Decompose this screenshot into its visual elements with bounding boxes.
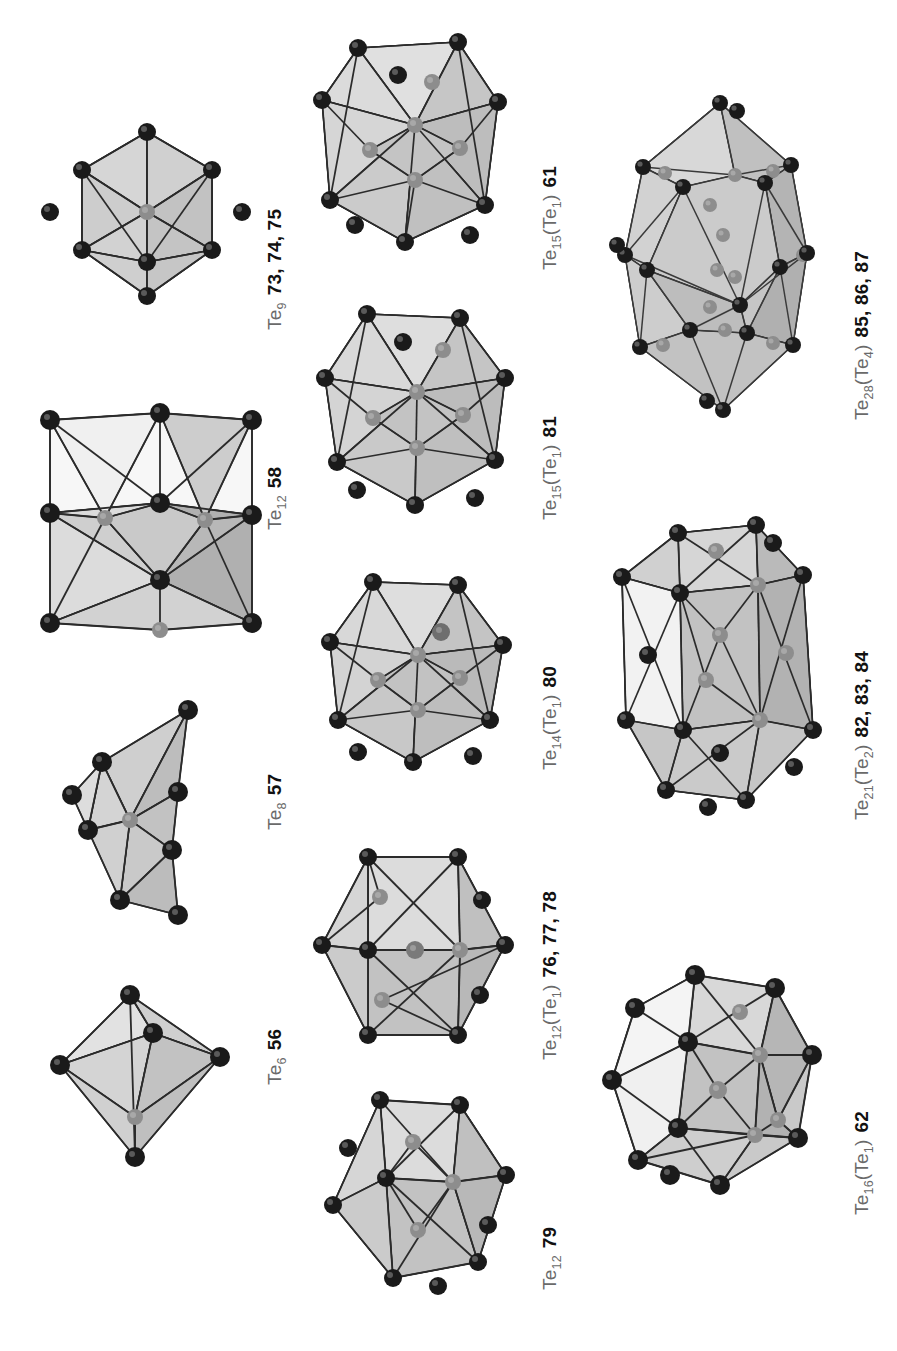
caption-te28-numbers: 85, 86, 87 [851,251,872,338]
caption-te9-formula: Te9 [264,302,285,330]
te14-80-polyhedron [318,570,518,770]
cluster-te15-61-diagram [310,30,520,260]
te15-61-polyhedron [310,30,520,260]
caption-te16: Te16(Te1)62 [852,1111,871,1215]
caption-te6-numbers: 56 [264,1029,285,1051]
caption-te14-80: Te14(Te1)80 [540,666,559,770]
te12-58-polyhedron [20,385,260,645]
caption-te8-numbers: 57 [264,774,285,796]
caption-te12-79: Te1279 [540,1227,559,1290]
caption-te28-formula: Te28(Te4) [851,344,872,420]
figure-plate: Te973, 74, 75 [0,0,897,1351]
cluster-te16-diagram [600,960,830,1210]
caption-te14-80-numbers: 80 [539,666,560,688]
caption-te9-numbers: 73, 74, 75 [264,209,285,296]
cluster-te15-81-diagram [315,300,520,515]
caption-te21-numbers: 82, 83, 84 [851,651,872,738]
te16-polyhedron [600,960,830,1210]
te12-79-polyhedron [318,1090,518,1290]
caption-te14-80-formula: Te14(Te1) [539,694,560,770]
caption-te12-58-formula: Te12 [264,495,285,530]
caption-te21-formula: Te21(Te2) [851,744,872,820]
caption-te12-767778: Te12(Te1)76, 77, 78 [540,891,559,1060]
te12-767778-polyhedron [310,845,515,1050]
cluster-te6-diagram [35,985,225,1165]
te9-polyhedron [42,100,252,320]
caption-te12-79-formula: Te12 [539,1255,560,1290]
te8-polyhedron [60,700,240,930]
caption-te12-767778-numbers: 76, 77, 78 [539,891,560,978]
cluster-te12-58-diagram [20,385,260,645]
caption-te15-81-numbers: 81 [539,416,560,438]
cluster-te21-diagram [608,515,833,815]
caption-te8-formula: Te8 [264,802,285,830]
cluster-te14-80-diagram [318,570,518,770]
caption-te6-formula: Te6 [264,1057,285,1085]
caption-te12-58-numbers: 58 [264,467,285,489]
cluster-te12-767778-diagram [310,845,515,1050]
caption-te16-numbers: 62 [851,1111,872,1133]
te15-81-polyhedron [315,300,520,515]
te28-polyhedron [595,95,830,425]
caption-te12-79-numbers: 79 [539,1227,560,1249]
caption-te15-81-formula: Te15(Te1) [539,444,560,520]
caption-te12-767778-formula: Te12(Te1) [539,984,560,1060]
caption-te21: Te21(Te2)82, 83, 84 [852,651,871,820]
caption-te9: Te973, 74, 75 [265,209,284,330]
caption-te28: Te28(Te4)85, 86, 87 [852,251,871,420]
te6-polyhedron [35,985,225,1165]
te21-polyhedron [608,515,833,815]
caption-te16-formula: Te16(Te1) [851,1139,872,1215]
caption-te15-61: Te15(Te1)61 [540,166,559,270]
caption-te15-61-numbers: 61 [539,166,560,188]
cluster-te9-diagram [42,100,252,320]
caption-te12-58: Te1258 [265,467,284,530]
caption-te8: Te857 [265,774,284,830]
cluster-te8-diagram [60,700,240,930]
cluster-te12-79-diagram [318,1090,518,1290]
caption-te15-61-formula: Te15(Te1) [539,194,560,270]
cluster-te28-diagram [595,95,830,425]
caption-te6: Te656 [265,1029,284,1085]
caption-te15-81: Te15(Te1)81 [540,416,559,520]
